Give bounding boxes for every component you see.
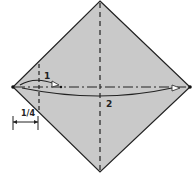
measure-label: 1/4 (21, 110, 35, 118)
target-dot (60, 86, 62, 88)
measure-arrow-right (34, 120, 38, 124)
origami-diagram (0, 0, 192, 182)
measure-arrow-left (13, 120, 17, 124)
step-1-label: 1 (44, 72, 50, 81)
right-corner-dot (188, 85, 192, 89)
step-2-label: 2 (106, 100, 112, 109)
left-corner-dot (11, 85, 15, 89)
